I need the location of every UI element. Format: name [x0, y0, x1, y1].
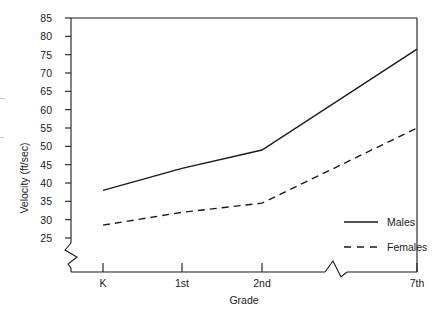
chart-figure: Velocity (ft/sec) 85 80 75 70 65 60 55 5… — [0, 0, 448, 315]
y-tick-label-85: 85 — [40, 12, 52, 24]
x-axis-break-icon — [325, 261, 347, 277]
y-tick-label-75: 75 — [40, 49, 52, 61]
x-tick-label-2nd: 2nd — [253, 277, 271, 289]
y-tick-label-70: 70 — [40, 67, 52, 79]
legend-label-males: Males — [387, 216, 415, 228]
y-tick-label-60: 60 — [40, 104, 52, 116]
y-axis-break-icon — [65, 243, 77, 268]
series-line-males — [103, 49, 417, 190]
legend: Males Females — [344, 216, 427, 253]
y-tick-label-65: 65 — [40, 85, 52, 97]
y-tick-label-30: 30 — [40, 214, 52, 226]
x-axis-tickmarks — [103, 263, 417, 272]
y-tick-label-80: 80 — [40, 30, 52, 42]
y-axis-title: Velocity (ft/sec) — [18, 142, 30, 213]
y-tick-label-35: 35 — [40, 195, 52, 207]
y-tick-label-55: 55 — [40, 122, 52, 134]
x-axis-title: Grade — [229, 294, 258, 306]
y-axis-tickmarks — [65, 18, 71, 238]
y-tick-label-50: 50 — [40, 140, 52, 152]
legend-label-females: Females — [387, 241, 427, 253]
y-tick-label-40: 40 — [40, 177, 52, 189]
y-tick-label-25: 25 — [40, 232, 52, 244]
line-chart-svg: Velocity (ft/sec) 85 80 75 70 65 60 55 5… — [0, 0, 448, 315]
scan-artifact — [0, 98, 5, 99]
x-tick-label-k: K — [99, 277, 106, 289]
x-tick-label-7th: 7th — [410, 277, 425, 289]
scan-artifact — [0, 137, 4, 138]
y-tick-label-45: 45 — [40, 159, 52, 171]
x-tick-label-1st: 1st — [175, 277, 189, 289]
